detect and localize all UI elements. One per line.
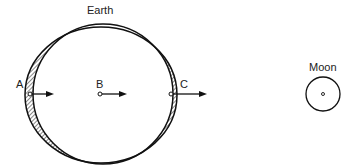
point-a-label: A [16,78,24,90]
moon: Moon [306,61,340,111]
point-c-label: C [180,78,188,90]
moon-center [322,93,325,96]
earth-label: Earth [87,4,113,16]
point-b-label: B [96,78,103,90]
tidal-diagram: Earth A B C Moon [0,0,353,168]
arrow-icon [199,91,207,97]
moon-label: Moon [309,61,337,73]
